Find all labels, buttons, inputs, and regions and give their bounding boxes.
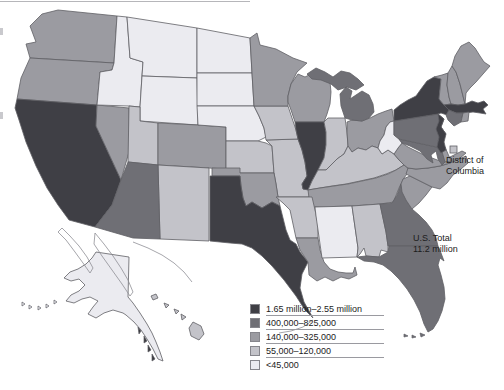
- legend-row: 140,000–325,000: [250, 331, 384, 345]
- legend-row: 400,000–825,000: [250, 317, 384, 331]
- us-total-line1: U.S. Total: [413, 233, 458, 244]
- state-mi: [340, 87, 374, 121]
- us-total-callout: U.S. Total 11.2 million: [413, 233, 458, 255]
- legend-label: 1.65 million–2.55 million: [266, 303, 384, 316]
- state-sd: [197, 73, 254, 106]
- legend-label: 140,000–325,000: [266, 331, 384, 344]
- florida-keys-mark: [404, 334, 408, 337]
- figure-us-choropleth: District of Columbia U.S. Total 11.2 mil…: [0, 0, 504, 390]
- legend-row: 1.65 million–2.55 million: [250, 303, 384, 317]
- state-hi-island: [164, 303, 169, 308]
- florida-keys-mark: [420, 333, 425, 337]
- mexico-outline: [133, 242, 192, 282]
- legend-label: 400,000–825,000: [266, 317, 384, 330]
- dc-callout-line2: Columbia: [446, 166, 484, 177]
- state-nd: [197, 28, 252, 73]
- state-ak: [64, 252, 163, 361]
- legend-swatch: [250, 332, 260, 342]
- alaska-aleutian-island: [29, 305, 32, 309]
- state-nm: [158, 165, 209, 241]
- alaska-archipelago-mark: [148, 345, 151, 352]
- legend-label: 55,000–120,000: [266, 345, 384, 358]
- state-wy: [140, 76, 198, 125]
- dc-callout-line1: District of: [446, 155, 484, 166]
- alaska-aleutian-island: [46, 304, 49, 308]
- us-total-line2: 11.2 million: [413, 244, 458, 255]
- legend-label: <45,000: [266, 359, 384, 371]
- florida-keys-mark: [412, 335, 416, 338]
- state-co: [158, 123, 226, 169]
- state-hi-island: [151, 294, 158, 300]
- legend-swatch: [250, 318, 260, 328]
- legend-swatch: [250, 360, 260, 370]
- state-hi-island: [189, 322, 204, 340]
- state-hi-island: [174, 309, 179, 314]
- state-hi-island: [181, 314, 186, 320]
- legend-row: <45,000: [250, 359, 384, 373]
- alaska-archipelago-mark: [152, 354, 155, 361]
- alaska-aleutian-island: [22, 302, 25, 306]
- map-legend: 1.65 million–2.55 million400,000–825,000…: [250, 303, 384, 373]
- legend-swatch: [250, 346, 260, 356]
- state-ms: [315, 206, 358, 258]
- legend-swatch: [250, 304, 260, 314]
- legend-row: 55,000–120,000: [250, 345, 384, 359]
- alaska-aleutian-island: [38, 306, 41, 310]
- state-dc-marker: [450, 146, 457, 153]
- state-wa: [26, 10, 117, 63]
- dc-callout: District of Columbia: [446, 155, 484, 177]
- alaska-aleutian-island: [54, 300, 57, 304]
